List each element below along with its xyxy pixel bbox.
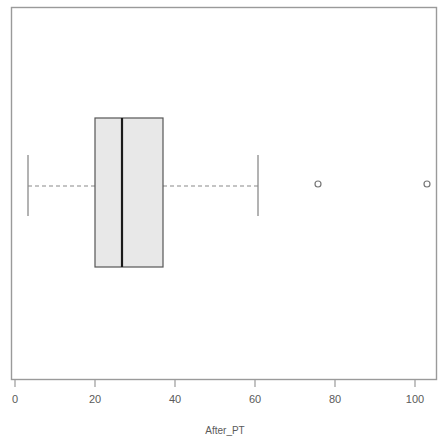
boxplot-series-after-pt: [28, 118, 430, 267]
x-axis-ticks: [15, 380, 415, 387]
x-tick-label-20: 20: [89, 393, 101, 405]
plot-frame: [12, 8, 437, 380]
x-tick-label-60: 60: [249, 393, 261, 405]
x-tick-label-80: 80: [329, 393, 341, 405]
iqr-box: [95, 118, 163, 267]
x-tick-label-0: 0: [12, 393, 18, 405]
frame-rect: [12, 8, 437, 380]
outlier-marker: [315, 181, 321, 187]
x-tick-label-100: 100: [406, 393, 424, 405]
chart-canvas: 0 20 40 60 80 100 After_PT: [0, 0, 440, 442]
outlier-marker: [424, 181, 430, 187]
x-tick-label-40: 40: [169, 393, 181, 405]
boxplot-figure: 0 20 40 60 80 100 After_PT: [0, 0, 440, 442]
x-axis-tick-labels: 0 20 40 60 80 100: [12, 393, 424, 405]
x-axis-title: After_PT: [205, 425, 244, 436]
